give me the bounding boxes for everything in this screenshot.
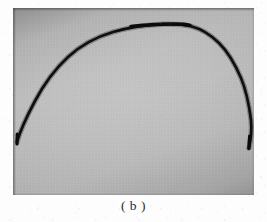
photo-edge-bottom	[13, 193, 254, 195]
arc-curve-svg	[13, 8, 254, 195]
photo-edge-left	[13, 8, 16, 195]
figure-caption: ( b )	[0, 196, 267, 216]
figure-panel-b: ( b )	[0, 0, 267, 222]
photo-edge-top	[13, 8, 254, 11]
photo-edge-right	[252, 8, 254, 195]
photograph	[13, 8, 254, 195]
arc-curve-halo	[17, 24, 251, 148]
arc-right-endpoint	[249, 136, 250, 149]
